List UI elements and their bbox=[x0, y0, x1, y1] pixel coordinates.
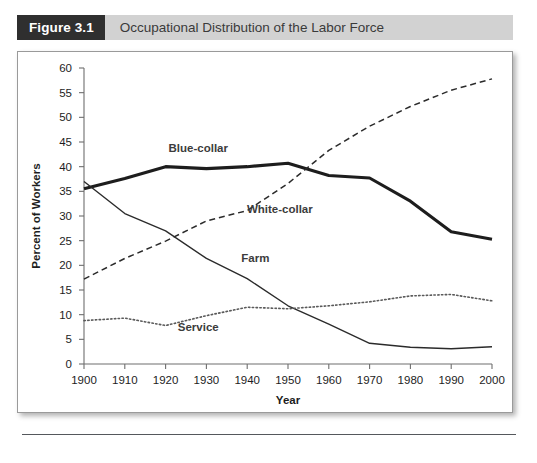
y-tick-label: 60 bbox=[59, 62, 72, 74]
y-tick-label: 10 bbox=[59, 309, 72, 321]
x-tick-label: 1910 bbox=[112, 374, 138, 386]
x-tick-label: 1970 bbox=[357, 374, 383, 386]
line-chart: 051015202530354045505560 190019101920193… bbox=[18, 52, 514, 412]
y-axis-tick-marks bbox=[79, 68, 84, 364]
series-label-farm: Farm bbox=[241, 252, 269, 264]
y-tick-label: 30 bbox=[59, 210, 72, 222]
y-axis-title: Percent of Workers bbox=[30, 163, 42, 268]
x-axis-tick-labels: 1900191019201930194019501960197019801990… bbox=[71, 374, 505, 386]
y-axis-tick-labels: 051015202530354045505560 bbox=[59, 62, 72, 370]
x-tick-label: 1980 bbox=[398, 374, 424, 386]
y-tick-label: 5 bbox=[66, 333, 72, 345]
figure-caption-title: Occupational Distribution of the Labor F… bbox=[105, 15, 384, 40]
y-tick-label: 20 bbox=[59, 259, 72, 271]
series-line-white-collar bbox=[84, 79, 492, 279]
series-line-blue-collar bbox=[84, 163, 492, 239]
series-label-white-collar: White-collar bbox=[247, 203, 313, 215]
x-tick-label: 1960 bbox=[316, 374, 342, 386]
y-tick-label: 45 bbox=[59, 136, 72, 148]
series-label-blue-collar: Blue-collar bbox=[169, 142, 229, 154]
series-line-service bbox=[84, 294, 492, 325]
y-tick-label: 35 bbox=[59, 185, 72, 197]
y-tick-label: 55 bbox=[59, 87, 72, 99]
figure-number-badge: Figure 3.1 bbox=[17, 15, 105, 40]
y-tick-label: 15 bbox=[59, 284, 72, 296]
figure-caption-banner: Figure 3.1 Occupational Distribution of … bbox=[17, 15, 513, 40]
y-tick-label: 25 bbox=[59, 235, 72, 247]
y-tick-label: 0 bbox=[66, 358, 72, 370]
x-tick-label: 2000 bbox=[479, 374, 505, 386]
x-tick-label: 1920 bbox=[153, 374, 179, 386]
x-tick-label: 1950 bbox=[275, 374, 301, 386]
x-tick-label: 1930 bbox=[194, 374, 220, 386]
x-tick-label: 1900 bbox=[71, 374, 97, 386]
series-label-service: Service bbox=[178, 321, 219, 333]
x-axis-title: Year bbox=[276, 394, 301, 406]
y-tick-label: 50 bbox=[59, 111, 72, 123]
x-tick-label: 1990 bbox=[438, 374, 464, 386]
chart-panel: 051015202530354045505560 190019101920193… bbox=[17, 51, 513, 413]
series-inline-labels: Blue-collarWhite-collarFarmService bbox=[169, 142, 314, 334]
bottom-divider-rule bbox=[22, 434, 516, 435]
x-tick-label: 1940 bbox=[234, 374, 260, 386]
x-axis-tick-marks bbox=[84, 364, 492, 369]
y-tick-label: 40 bbox=[59, 161, 72, 173]
